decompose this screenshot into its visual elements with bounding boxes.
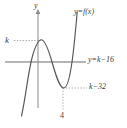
function-label: y=f(x) bbox=[74, 8, 94, 16]
y-axis-label: y bbox=[34, 2, 38, 10]
local-max-value-label: k bbox=[5, 36, 9, 45]
graph-canvas bbox=[0, 0, 127, 128]
math-figure-cubic-graph: k y y=f(x) y=k−16 k−32 4 bbox=[0, 0, 127, 128]
horizontal-line-label: y=k−16 bbox=[88, 56, 114, 64]
local-min-value-label: k−32 bbox=[89, 83, 106, 91]
cubic-curve bbox=[22, 12, 78, 116]
x-local-min-label: 4 bbox=[60, 112, 64, 120]
